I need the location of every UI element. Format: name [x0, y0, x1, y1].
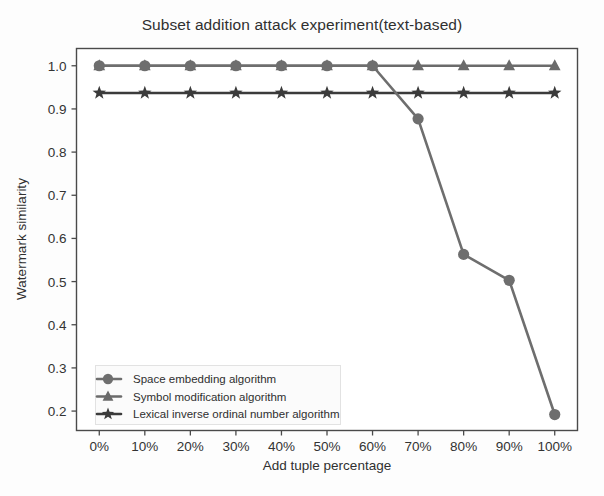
x-tick-label: 20%	[177, 439, 204, 454]
y-tick-label: 0.3	[48, 361, 67, 376]
marker-circle	[412, 113, 423, 124]
legend-label: Lexical inverse ordinal number algorithm	[133, 408, 339, 420]
marker-circle	[549, 409, 560, 420]
y-axis-title: Watermark similarity	[14, 178, 29, 300]
marker-circle	[185, 60, 196, 71]
y-tick-label: 0.5	[48, 275, 67, 290]
y-tick-label: 0.7	[48, 188, 67, 203]
x-tick-label: 30%	[222, 439, 249, 454]
x-tick-label: 0%	[90, 439, 110, 454]
x-axis-ticks: 0%10%20%30%40%50%60%70%80%90%100%	[90, 431, 572, 454]
x-axis-title: Add tuple percentage	[263, 458, 391, 473]
marker-circle	[94, 60, 105, 71]
y-tick-label: 1.0	[48, 59, 67, 74]
marker-circle	[504, 275, 515, 286]
x-tick-label: 80%	[450, 439, 477, 454]
marker-circle	[321, 60, 332, 71]
marker-circle	[276, 60, 287, 71]
x-tick-label: 40%	[268, 439, 295, 454]
y-tick-label: 0.4	[48, 318, 67, 333]
legend-label: Symbol modification algorithm	[133, 391, 286, 403]
y-tick-label: 0.9	[48, 102, 67, 117]
marker-circle	[458, 249, 469, 260]
chart-plot-area: 0.20.30.40.50.60.70.80.91.0 0%10%20%30%4…	[0, 0, 604, 496]
marker-circle	[367, 60, 378, 71]
y-tick-label: 0.6	[48, 231, 67, 246]
y-tick-label: 0.2	[48, 404, 67, 419]
marker-circle	[139, 60, 150, 71]
x-tick-label: 60%	[359, 439, 386, 454]
marker-circle	[230, 60, 241, 71]
y-axis-ticks: 0.20.30.40.50.60.70.80.91.0	[48, 59, 77, 419]
chart-legend: Space embedding algorithmSymbol modifica…	[96, 366, 341, 425]
x-tick-label: 10%	[131, 439, 158, 454]
x-tick-label: 50%	[313, 439, 340, 454]
x-tick-label: 90%	[496, 439, 523, 454]
marker-circle	[103, 374, 113, 384]
x-tick-label: 100%	[537, 439, 572, 454]
legend-label: Space embedding algorithm	[133, 373, 276, 385]
x-tick-label: 70%	[405, 439, 432, 454]
chart-figure: Subset addition attack experiment(text-b…	[0, 0, 604, 496]
y-tick-label: 0.8	[48, 145, 67, 160]
